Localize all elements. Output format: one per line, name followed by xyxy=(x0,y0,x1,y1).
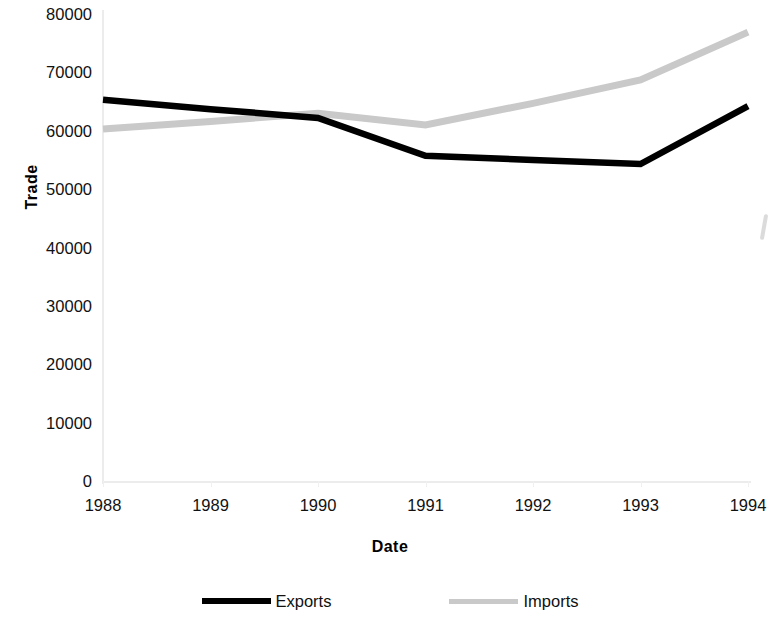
line-chart: Trade 8000070000600005000040000300002000… xyxy=(0,0,780,632)
x-axis-tick-label: 1988 xyxy=(58,497,148,514)
y-axis-tick-label: 40000 xyxy=(8,240,92,257)
legend-label: Imports xyxy=(523,593,578,610)
legend-line-swatch xyxy=(202,598,271,604)
x-axis-tick-mark xyxy=(748,481,749,487)
legend-entry[interactable]: Imports xyxy=(449,593,578,610)
y-axis-tick-label: 70000 xyxy=(8,64,92,81)
series-line-exports xyxy=(103,100,748,164)
legend-label: Exports xyxy=(276,593,332,610)
y-axis-tick-label: 20000 xyxy=(8,356,92,373)
y-axis-tick-label: 50000 xyxy=(8,181,92,198)
scan-artifact xyxy=(760,214,768,240)
x-axis-tick-labels: 1988198919901991199219931994 xyxy=(0,497,780,523)
series-line-imports xyxy=(103,32,748,129)
x-axis-tick-mark xyxy=(426,481,427,487)
x-axis-title: Date xyxy=(0,538,780,556)
plot-area xyxy=(103,14,748,481)
series-lines xyxy=(103,14,748,481)
x-axis-tick-label: 1994 xyxy=(703,497,780,514)
x-axis-tick-label: 1989 xyxy=(166,497,256,514)
x-axis-line xyxy=(103,481,751,483)
x-axis-tick-label: 1990 xyxy=(273,497,363,514)
y-axis-tick-label: 30000 xyxy=(8,298,92,315)
x-axis-tick-mark xyxy=(641,481,642,487)
chart-legend: ExportsImports xyxy=(0,593,780,610)
legend-line-swatch xyxy=(449,599,518,604)
x-axis-tick-label: 1993 xyxy=(596,497,686,514)
x-axis-tick-mark xyxy=(318,481,319,487)
x-axis-tick-mark xyxy=(533,481,534,487)
x-axis-tick-label: 1991 xyxy=(381,497,471,514)
legend-entry[interactable]: Exports xyxy=(202,593,332,610)
y-axis-tick-label: 0 xyxy=(8,473,92,490)
y-axis-tick-label: 10000 xyxy=(8,415,92,432)
x-axis-tick-label: 1992 xyxy=(488,497,578,514)
y-axis-tick-label: 80000 xyxy=(8,6,92,23)
y-axis-tick-label: 60000 xyxy=(8,123,92,140)
x-axis-tick-mark xyxy=(103,481,104,487)
x-axis-tick-mark xyxy=(211,481,212,487)
